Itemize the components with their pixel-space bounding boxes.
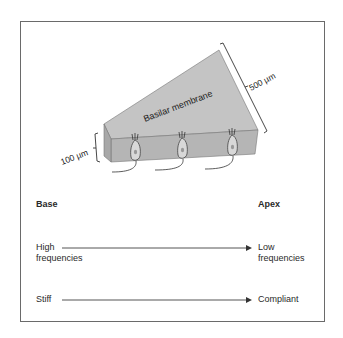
width-base-label: 100 µm xyxy=(59,147,89,167)
apex-heading: Apex xyxy=(258,199,280,210)
stiffness-arrow xyxy=(62,297,252,303)
membrane-top-face xyxy=(104,50,258,139)
width-base-bracket xyxy=(95,133,100,162)
high-label-line2: frequencies xyxy=(36,253,83,263)
low-label-line2: frequencies xyxy=(258,253,305,263)
compliant-label: Compliant xyxy=(258,294,299,305)
stiff-label: Stiff xyxy=(36,294,51,305)
frequency-arrow xyxy=(62,245,252,251)
high-frequencies-label: High frequencies xyxy=(36,242,83,264)
low-label-line1: Low xyxy=(258,242,275,252)
width-apex-label: 500 µm xyxy=(247,71,277,93)
basilar-membrane-diagram: Basilar membrane 500 µm 100 µm xyxy=(0,0,343,338)
low-frequencies-label: Low frequencies xyxy=(258,242,305,264)
high-label-line1: High xyxy=(36,242,55,252)
base-heading: Base xyxy=(36,199,58,210)
